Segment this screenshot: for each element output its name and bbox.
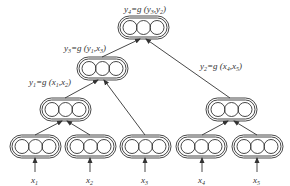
node-y3 [77,57,128,80]
node-y1 [40,98,91,121]
label-x2: x2 [86,175,93,186]
label-y1: y1=g (x1,x2) [29,77,71,90]
label-x3: x3 [141,175,148,186]
label-y3: y3=g (y1,x3) [64,43,106,56]
label-x5: x5 [253,175,260,186]
label-x1: x1 [31,175,38,186]
node-x1 [10,135,61,158]
label-y4: y4=g (y3,y2) [124,4,166,17]
node-y4 [118,16,169,39]
label-y2: y2=g (x4,x5) [200,61,242,74]
node-y2 [206,98,257,121]
node-x5 [232,135,283,158]
tree-diagram [0,0,290,186]
node-x4 [176,135,227,158]
label-x4: x4 [198,175,205,186]
node-x3 [120,135,171,158]
node-x2 [65,135,116,158]
